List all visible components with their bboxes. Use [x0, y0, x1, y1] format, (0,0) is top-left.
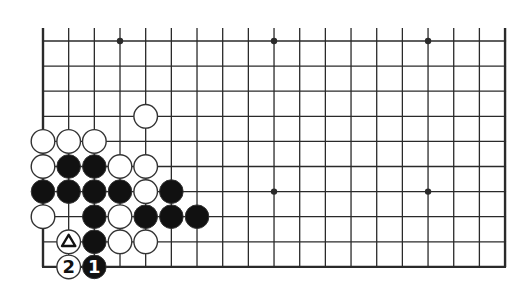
- stone-body: [134, 205, 158, 229]
- white-stone: [31, 205, 55, 229]
- stone-body: [57, 155, 81, 179]
- black-stone: [160, 180, 184, 204]
- move-number-label: 1: [88, 256, 101, 277]
- stone-body: [108, 180, 132, 204]
- stone-body: [83, 205, 107, 229]
- stone-body: [83, 230, 107, 254]
- stone-body: [134, 105, 158, 129]
- stone-body: [31, 180, 55, 204]
- stone-body: [134, 155, 158, 179]
- star-point: [425, 188, 431, 194]
- white-stone: [108, 155, 132, 179]
- white-stone: [31, 155, 55, 179]
- stone-body: [31, 130, 55, 154]
- board-grid: [42, 28, 506, 267]
- stone-body: [83, 180, 107, 204]
- stone-body: [108, 205, 132, 229]
- black-stone: [83, 155, 107, 179]
- stone-body: [57, 230, 81, 254]
- black-stone: [108, 180, 132, 204]
- black-stone: [83, 230, 107, 254]
- black-stone: [57, 155, 81, 179]
- white-stone: [134, 230, 158, 254]
- star-point: [271, 188, 277, 194]
- stone-body: [31, 205, 55, 229]
- star-point: [117, 38, 123, 44]
- go-board-diagram: 21: [0, 0, 531, 292]
- white-stone: [83, 130, 107, 154]
- stone-body: [31, 155, 55, 179]
- black-stone: [83, 205, 107, 229]
- stone-body: [160, 205, 184, 229]
- white-stone: [134, 155, 158, 179]
- black-stone: [134, 205, 158, 229]
- stone-body: [134, 180, 158, 204]
- stone-body: [83, 130, 107, 154]
- black-stone: [31, 180, 55, 204]
- black-stone: [160, 205, 184, 229]
- white-stone: [134, 180, 158, 204]
- black-stone: [185, 205, 209, 229]
- move-number-label: 2: [62, 256, 75, 277]
- stone-body: [83, 155, 107, 179]
- white-stone: [108, 230, 132, 254]
- stone-body: [57, 130, 81, 154]
- black-stone: [57, 180, 81, 204]
- stone-body: [108, 155, 132, 179]
- stone-body: [160, 180, 184, 204]
- black-stone: [83, 180, 107, 204]
- white-stone: [134, 105, 158, 129]
- stone-body: [57, 180, 81, 204]
- star-point: [271, 38, 277, 44]
- white-stone: 2: [57, 255, 81, 279]
- star-point: [425, 38, 431, 44]
- stone-body: [185, 205, 209, 229]
- black-stone: 1: [83, 255, 107, 279]
- white-stone: [57, 230, 81, 254]
- white-stone: [57, 130, 81, 154]
- stone-body: [134, 230, 158, 254]
- white-stone: [31, 130, 55, 154]
- stone-body: [108, 230, 132, 254]
- white-stone: [108, 205, 132, 229]
